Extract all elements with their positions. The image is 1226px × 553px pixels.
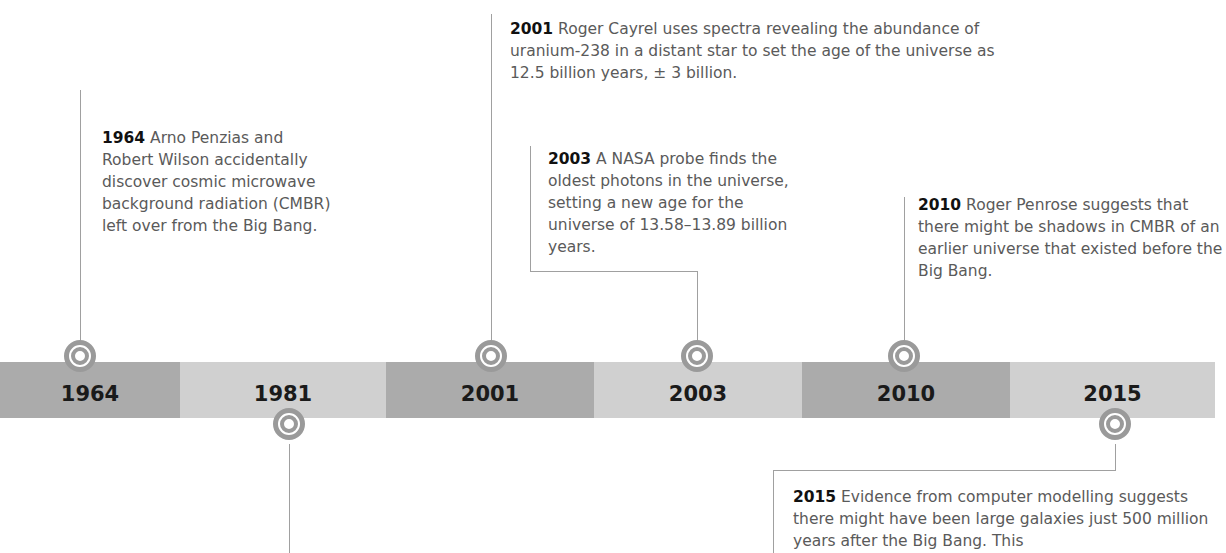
segment-year: 2010 [877, 382, 935, 406]
connector-2003-horizontal [530, 271, 698, 272]
event-year: 2003 [548, 150, 591, 168]
event-year: 2010 [918, 196, 961, 214]
event-text: Evidence from computer modelling suggest… [793, 488, 1208, 550]
event-year: 2015 [793, 488, 836, 506]
event-note-2003: 2003 A NASA probe finds the oldest photo… [548, 148, 813, 258]
event-note-2015: 2015 Evidence from computer modelling su… [793, 486, 1213, 552]
event-year: 1964 [102, 129, 145, 147]
event-note-2010: 2010 Roger Penrose suggests that there m… [918, 194, 1223, 282]
segment-year: 2003 [669, 382, 727, 406]
target-ring-icon [475, 340, 507, 372]
target-ring-icon [681, 340, 713, 372]
event-note-1964: 1964 Arno Penzias and Robert Wilson acci… [102, 127, 332, 237]
connector-2003-vertical-left [530, 146, 531, 271]
connector-2003-vertical-right [697, 271, 698, 343]
connector-1964 [80, 90, 81, 350]
target-ring-icon [1099, 408, 1131, 440]
segment-year: 1964 [61, 382, 119, 406]
connector-1981 [289, 444, 290, 553]
segment-year: 2001 [461, 382, 519, 406]
target-ring-icon [888, 340, 920, 372]
connector-2015-vertical [1115, 444, 1116, 470]
target-ring-icon [64, 340, 96, 372]
event-text: Roger Penrose suggests that there might … [918, 196, 1222, 280]
event-text: Roger Cayrel uses spectra revealing the … [510, 20, 995, 82]
segment-year: 2015 [1083, 382, 1141, 406]
connector-2015-horizontal [773, 470, 1116, 471]
event-note-2001: 2001 Roger Cayrel uses spectra revealing… [510, 18, 1015, 84]
connector-2001 [491, 14, 492, 344]
segment-year: 1981 [254, 382, 312, 406]
timeline-band: 1964 1981 2001 2003 2010 2015 [0, 362, 1215, 418]
timeline-segment-1964: 1964 [0, 362, 180, 418]
event-year: 2001 [510, 20, 553, 38]
connector-2010 [904, 197, 905, 343]
target-ring-icon [273, 408, 305, 440]
connector-2015-box-left [773, 470, 774, 553]
